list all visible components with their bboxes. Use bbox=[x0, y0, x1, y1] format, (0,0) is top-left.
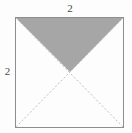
top-side-length-label: 2 bbox=[63, 3, 77, 14]
square-with-diagonals-diagram bbox=[0, 0, 132, 133]
left-side-length-label: 2 bbox=[1, 66, 14, 77]
geometry-figure-container: 2 2 bbox=[0, 0, 132, 133]
shaded-triangle bbox=[15, 17, 124, 72]
